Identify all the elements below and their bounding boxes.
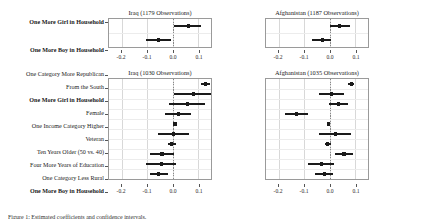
estimate-row	[266, 99, 368, 109]
row-label: Veteran	[0, 133, 108, 146]
row-label: One More Boy in Household	[0, 185, 108, 198]
estimate-row	[266, 89, 368, 99]
plot-area	[108, 78, 212, 180]
estimate-row	[266, 139, 368, 149]
panel-bottom-right: Afghanistan (1035 Observations) -0.2-0.1…	[265, 68, 369, 198]
point-estimate-marker	[337, 102, 340, 105]
panel-top-right: Afghanistan (1187 Observations) -0.2-0.1…	[265, 8, 369, 64]
point-estimate-marker	[330, 92, 333, 95]
estimate-row	[109, 119, 211, 129]
estimate-row	[109, 129, 211, 139]
estimate-row	[109, 79, 211, 89]
estimate-row	[266, 129, 368, 139]
estimate-row	[109, 19, 211, 33]
point-estimate-marker	[321, 38, 324, 41]
x-axis: -0.2-0.10.00.1	[265, 50, 369, 64]
axis-tick-label: -0.1	[143, 187, 152, 195]
estimate-row	[266, 19, 368, 33]
panel-top-left: Iraq (1179 Observations) -0.2-0.10.00.1	[108, 8, 212, 64]
x-axis: -0.2-0.10.00.1	[108, 184, 212, 198]
x-axis: -0.2-0.10.00.1	[265, 184, 369, 198]
estimate-row	[109, 139, 211, 149]
point-estimate-marker	[170, 142, 173, 145]
point-estimate-marker	[172, 132, 175, 135]
axis-tick-label: 0.1	[196, 53, 203, 61]
axis-tick-label: 0.1	[353, 53, 360, 61]
row-label: Female	[0, 107, 108, 120]
row-label: From the South	[0, 81, 108, 94]
panel-band-top: One More Girl in HouseholdOne More Boy i…	[0, 8, 425, 64]
point-estimate-marker	[320, 162, 323, 165]
estimate-row	[266, 79, 368, 89]
row-label: One Category More Republican	[0, 68, 108, 81]
axis-tick-label: 0.0	[170, 187, 177, 195]
figure-caption: Figure 1: Estimated coefficients and con…	[8, 213, 417, 219]
point-estimate-marker	[157, 38, 160, 41]
estimate-row	[266, 149, 368, 159]
axis-tick-label: -0.1	[300, 53, 309, 61]
axis-tick-label: -0.2	[274, 53, 283, 61]
row-label-gutter-top: One More Girl in HouseholdOne More Boy i…	[0, 8, 108, 64]
estimate-row	[266, 119, 368, 129]
estimate-row	[109, 99, 211, 109]
estimate-row	[109, 159, 211, 169]
row-label: Four More Years of Education	[0, 159, 108, 172]
coefficient-plot-figure: One More Girl in HouseholdOne More Boy i…	[0, 0, 425, 219]
row-label: One Income Category Higher	[0, 120, 108, 133]
axis-tick-label: -0.1	[143, 53, 152, 61]
point-estimate-marker	[187, 24, 190, 27]
point-estimate-marker	[326, 142, 329, 145]
axis-tick-label: -0.2	[274, 187, 283, 195]
point-estimate-marker	[192, 92, 195, 95]
estimate-row	[109, 169, 211, 179]
panel-title: Afghanistan (1187 Observations)	[265, 8, 369, 17]
point-estimate-marker	[338, 24, 341, 27]
estimate-row	[266, 33, 368, 47]
estimate-row	[109, 149, 211, 159]
panel-band-bottom: One Category More RepublicanFrom the Sou…	[0, 68, 425, 198]
point-estimate-marker	[177, 112, 180, 115]
point-estimate-marker	[323, 172, 326, 175]
panel-bottom-left: Iraq (1030 Observations) -0.2-0.10.00.1	[108, 68, 212, 198]
panel-title: Iraq (1030 Observations)	[108, 68, 212, 77]
point-estimate-marker	[157, 172, 160, 175]
axis-tick-label: 0.1	[196, 187, 203, 195]
point-estimate-marker	[204, 82, 207, 85]
point-estimate-marker	[342, 152, 345, 155]
axis-tick-label: -0.1	[300, 187, 309, 195]
axis-tick-label: -0.2	[117, 53, 126, 61]
panel-title: Iraq (1179 Observations)	[108, 8, 212, 17]
x-axis: -0.2-0.10.00.1	[108, 50, 212, 64]
axis-tick-label: 0.0	[170, 53, 177, 61]
point-estimate-marker	[327, 122, 330, 125]
row-label: One More Girl in Household	[0, 94, 108, 107]
point-estimate-marker	[173, 122, 176, 125]
row-label: One More Girl in Household	[0, 8, 108, 36]
point-estimate-marker	[160, 152, 163, 155]
point-estimate-marker	[186, 102, 189, 105]
point-estimate-marker	[350, 82, 353, 85]
axis-tick-label: -0.2	[117, 187, 126, 195]
plot-area	[265, 18, 369, 48]
row-label-gutter-bottom: One Category More RepublicanFrom the Sou…	[0, 68, 108, 198]
axis-tick-label: 0.1	[353, 187, 360, 195]
estimate-row	[109, 89, 211, 99]
row-label: One More Boy in Household	[0, 36, 108, 64]
axis-tick-label: 0.0	[327, 187, 334, 195]
point-estimate-marker	[160, 162, 163, 165]
row-label: One Category Less Rural	[0, 172, 108, 185]
estimate-row	[266, 159, 368, 169]
point-estimate-marker	[295, 112, 298, 115]
estimate-row	[266, 109, 368, 119]
panel-title: Afghanistan (1035 Observations)	[265, 68, 369, 77]
estimate-row	[109, 33, 211, 47]
row-label: Ten Years Older (50 vs. 40)	[0, 146, 108, 159]
estimate-row	[266, 169, 368, 179]
plot-area	[265, 78, 369, 180]
axis-tick-label: 0.0	[327, 53, 334, 61]
plot-area	[108, 18, 212, 48]
estimate-row	[109, 109, 211, 119]
point-estimate-marker	[334, 132, 337, 135]
